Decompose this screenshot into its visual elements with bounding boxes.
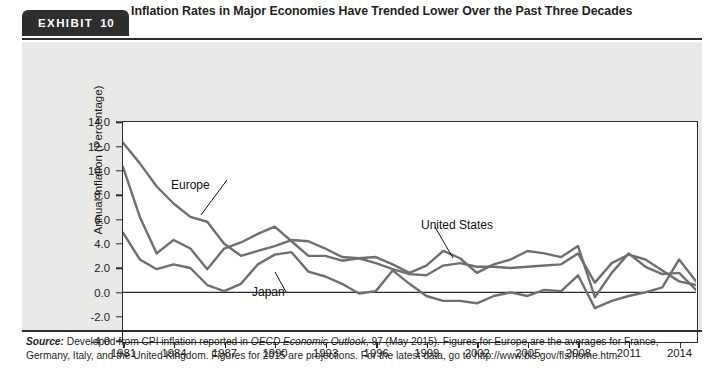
exhibit-badge-label: EXHIBIT [38,17,93,29]
series-label-japan: Japan [252,285,285,299]
plot-area [122,121,698,343]
y-tick-label: 12.0 [68,141,110,153]
y-tick-label: 4.0 [68,238,110,250]
line-chart-svg [123,122,696,341]
source-text-c: Germany, Italy, and the United Kingdom. … [26,350,620,361]
series-label-united-states: United States [421,218,493,232]
chart-panel: Annual Inflation (Percentage) 14.012.010… [22,42,702,330]
header-divider [22,38,702,40]
exhibit-figure: EXHIBIT 10 Inflation Rates in Major Econ… [0,0,724,386]
source-text-b: , 97 (May 2015). Figures for Europe are … [366,336,659,347]
series-line-japan [123,233,696,308]
series-label-europe: Europe [171,178,210,192]
y-tick-label: 14.0 [68,116,110,128]
y-tick-label: 6.0 [68,214,110,226]
exhibit-badge: EXHIBIT 10 [22,10,129,36]
footer-divider [22,330,702,332]
source-text-a: Developed from CPI inflation reported in [64,336,251,347]
source-note: Source: Developed from CPI inflation rep… [26,335,700,363]
y-axis-ticks: 14.012.010.08.06.04.02.00.0-2.0-4.0 [70,42,116,330]
y-tick-label: 2.0 [68,262,110,274]
series-line-europe [123,143,696,285]
y-tick-label: 0.0 [68,287,110,299]
source-publication: OECD Economic Outlook [251,336,366,347]
exhibit-title: Inflation Rates in Major Economies Have … [131,4,632,18]
y-tick-label: 10.0 [68,165,110,177]
y-tick-label: -2.0 [68,311,110,323]
exhibit-badge-number: 10 [100,17,114,29]
source-label: Source: [26,336,64,347]
y-tick-label: 8.0 [68,189,110,201]
